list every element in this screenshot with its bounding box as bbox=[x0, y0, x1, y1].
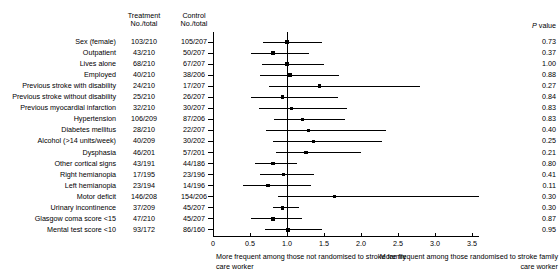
column-header-pvalue: P value bbox=[498, 21, 556, 30]
row-treatment-count: 32/210 bbox=[118, 102, 170, 113]
row-p-value: 1.00 bbox=[498, 58, 556, 69]
row-p-value: 0.30 bbox=[498, 191, 556, 202]
column-header-control-line2: No./total bbox=[172, 20, 216, 28]
x-axis-line bbox=[213, 236, 479, 237]
table-row: Diabetes mellitus28/21022/2070.40 bbox=[0, 124, 560, 135]
x-axis-tick-label: 0 bbox=[198, 239, 228, 248]
table-row: Other cortical signs43/19144/1860.80 bbox=[0, 158, 560, 169]
x-axis-tick-label: 2.0 bbox=[346, 239, 376, 248]
row-treatment-count: 103/210 bbox=[118, 36, 170, 47]
x-axis-tick-label: 0.5 bbox=[235, 239, 265, 248]
row-treatment-count: 146/208 bbox=[118, 191, 170, 202]
table-row: Dysphasia46/20157/2010.21 bbox=[0, 147, 560, 158]
row-p-value: 0.95 bbox=[498, 224, 556, 235]
row-label: Motor deficit bbox=[0, 191, 116, 202]
row-control-count: 26/207 bbox=[172, 91, 216, 102]
row-p-value: 0.27 bbox=[498, 80, 556, 91]
row-control-count: 22/207 bbox=[172, 124, 216, 135]
row-control-count: 87/206 bbox=[172, 113, 216, 124]
row-label: Other cortical signs bbox=[0, 158, 116, 169]
table-row: Previous stroke without disability25/210… bbox=[0, 91, 560, 102]
row-treatment-count: 25/210 bbox=[118, 91, 170, 102]
row-control-count: 105/207 bbox=[172, 36, 216, 47]
row-control-count: 86/160 bbox=[172, 224, 216, 235]
row-treatment-count: 24/210 bbox=[118, 80, 170, 91]
table-row: Mental test score <1093/17286/1600.95 bbox=[0, 224, 560, 235]
row-treatment-count: 17/195 bbox=[118, 169, 170, 180]
axis-note-right: More frequent among those randomised to … bbox=[368, 252, 558, 271]
table-row: Outpatient43/21050/2070.37 bbox=[0, 47, 560, 58]
row-treatment-count: 37/209 bbox=[118, 202, 170, 213]
row-p-value: 0.25 bbox=[498, 135, 556, 146]
row-label: Outpatient bbox=[0, 47, 116, 58]
row-p-value: 0.83 bbox=[498, 113, 556, 124]
table-row: Motor deficit146/208154/2060.30 bbox=[0, 191, 560, 202]
row-control-count: 45/207 bbox=[172, 213, 216, 224]
row-control-count: 30/207 bbox=[172, 102, 216, 113]
table-row: Previous myocardial infarction32/21030/2… bbox=[0, 102, 560, 113]
row-treatment-count: 23/194 bbox=[118, 180, 170, 191]
row-p-value: 0.80 bbox=[498, 158, 556, 169]
row-p-value: 0.21 bbox=[498, 147, 556, 158]
table-row: Previous stroke with disability24/21017/… bbox=[0, 80, 560, 91]
row-control-count: 50/207 bbox=[172, 47, 216, 58]
row-treatment-count: 106/209 bbox=[118, 113, 170, 124]
row-label: Employed bbox=[0, 69, 116, 80]
forest-plot-figure: Treatment No./total Control No./total P … bbox=[0, 0, 560, 275]
row-control-count: 17/207 bbox=[172, 80, 216, 91]
table-row: Right hemianopia17/19523/1960.41 bbox=[0, 169, 560, 180]
row-treatment-count: 40/210 bbox=[118, 69, 170, 80]
row-control-count: 23/196 bbox=[172, 169, 216, 180]
row-treatment-count: 28/210 bbox=[118, 124, 170, 135]
row-treatment-count: 47/210 bbox=[118, 213, 170, 224]
row-control-count: 57/201 bbox=[172, 147, 216, 158]
x-axis-tick-label: 3.5 bbox=[457, 239, 487, 248]
row-label: Lives alone bbox=[0, 58, 116, 69]
x-axis-tick-label: 2.5 bbox=[383, 239, 413, 248]
row-treatment-count: 93/172 bbox=[118, 224, 170, 235]
row-treatment-count: 40/209 bbox=[118, 135, 170, 146]
row-p-value: 0.37 bbox=[498, 47, 556, 58]
column-header-treatment-line2: No./total bbox=[118, 20, 170, 28]
row-label: Alcohol (>14 units/week) bbox=[0, 135, 116, 146]
table-row: Lives alone68/21067/2071.00 bbox=[0, 58, 560, 69]
x-axis-tick-label: 1.0 bbox=[272, 239, 302, 248]
row-control-count: 67/207 bbox=[172, 58, 216, 69]
row-label: Previous myocardial infarction bbox=[0, 102, 116, 113]
table-row: Employed40/21038/2060.88 bbox=[0, 69, 560, 80]
row-control-count: 45/207 bbox=[172, 202, 216, 213]
row-label: Previous stroke without disability bbox=[0, 91, 116, 102]
row-p-value: 0.84 bbox=[498, 91, 556, 102]
table-row: Alcohol (>14 units/week)40/20930/2020.25 bbox=[0, 135, 560, 146]
pvalue-word: value bbox=[537, 21, 556, 30]
row-control-count: 38/206 bbox=[172, 69, 216, 80]
x-axis-tick-label: 3.0 bbox=[420, 239, 450, 248]
row-label: Left hemianopia bbox=[0, 180, 116, 191]
row-control-count: 30/202 bbox=[172, 135, 216, 146]
row-label: Glasgow coma score <15 bbox=[0, 213, 116, 224]
row-treatment-count: 46/201 bbox=[118, 147, 170, 158]
column-header-control: Control No./total bbox=[172, 12, 216, 29]
row-p-value: 0.83 bbox=[498, 102, 556, 113]
row-label: Right hemianopia bbox=[0, 169, 116, 180]
table-row: Glasgow coma score <1547/21045/2070.87 bbox=[0, 213, 560, 224]
row-label: Diabetes mellitus bbox=[0, 124, 116, 135]
row-label: Hypertension bbox=[0, 113, 116, 124]
x-axis-tick-label: 1.5 bbox=[309, 239, 339, 248]
row-label: Urinary incontinence bbox=[0, 202, 116, 213]
row-control-count: 44/186 bbox=[172, 158, 216, 169]
row-p-value: 0.87 bbox=[498, 213, 556, 224]
row-treatment-count: 68/210 bbox=[118, 58, 170, 69]
table-row: Urinary incontinence37/20945/2070.30 bbox=[0, 202, 560, 213]
row-p-value: 0.88 bbox=[498, 69, 556, 80]
row-label: Sex (female) bbox=[0, 36, 116, 47]
row-label: Dysphasia bbox=[0, 147, 116, 158]
row-label: Previous stroke with disability bbox=[0, 80, 116, 91]
row-p-value: 0.40 bbox=[498, 124, 556, 135]
row-p-value: 0.30 bbox=[498, 202, 556, 213]
row-p-value: 0.73 bbox=[498, 36, 556, 47]
row-p-value: 0.11 bbox=[498, 180, 556, 191]
column-header-treatment: Treatment No./total bbox=[118, 12, 170, 29]
row-p-value: 0.41 bbox=[498, 169, 556, 180]
row-label: Mental test score <10 bbox=[0, 224, 116, 235]
